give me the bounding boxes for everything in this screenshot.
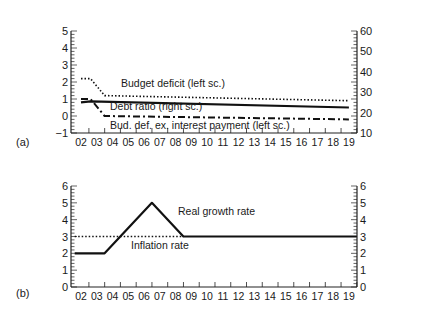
x-tick-label: 03 <box>91 290 103 302</box>
left-y-tick-label: 3 <box>62 231 68 243</box>
x-tick-label: 07 <box>154 290 166 302</box>
x-tick-label: 09 <box>185 136 197 148</box>
x-tick-label: 04 <box>107 290 119 302</box>
x-tick-label: 14 <box>264 290 276 302</box>
inflation-annotation: Inflation rate <box>131 239 189 251</box>
x-tick-label: 09 <box>185 290 197 302</box>
real-growth-annotation: Real growth rate <box>178 205 255 217</box>
right-y-tick-label: 30 <box>360 86 372 98</box>
x-tick-label: 06 <box>138 136 150 148</box>
x-tick-label: 05 <box>122 290 134 302</box>
left-y-tick-label: 0 <box>62 281 68 293</box>
x-tick-label: 15 <box>280 136 292 148</box>
left-y-tick-label: 2 <box>62 76 68 88</box>
x-tick-label: 06 <box>138 290 150 302</box>
x-tick-label: 04 <box>107 136 119 148</box>
debt-ratio-annotation: Debt ratio (right sc.) <box>110 100 202 112</box>
panel-a-label: (a) <box>16 136 29 148</box>
right-y-tick-label: 40 <box>360 66 372 78</box>
panel-b-label: (b) <box>16 287 29 299</box>
right-y-tick-label: 10 <box>360 127 372 139</box>
budget-deficit-annotation: Budget deficit (left sc.) <box>121 77 225 89</box>
x-tick-label: 18 <box>327 290 339 302</box>
left-y-tick-label: 5 <box>62 25 68 37</box>
right-y-tick-label: 3 <box>360 231 366 243</box>
x-tick-label: 08 <box>170 136 182 148</box>
left-y-tick-label: 2 <box>62 247 68 259</box>
left-y-tick-label: 3 <box>62 59 68 71</box>
left-y-tick-label: 0 <box>62 110 68 122</box>
x-tick-label: 13 <box>249 136 261 148</box>
right-y-tick-label: 6 <box>360 180 366 192</box>
right-y-tick-label: 50 <box>360 45 372 57</box>
left-y-tick-label: 4 <box>62 42 68 54</box>
left-y-tick-label: 1 <box>62 264 68 276</box>
x-tick-label: 15 <box>280 290 292 302</box>
right-y-tick-label: 60 <box>360 25 372 37</box>
x-tick-label: 10 <box>201 290 213 302</box>
x-tick-label: 10 <box>201 136 213 148</box>
x-tick-label: 14 <box>264 136 276 148</box>
x-tick-label: 18 <box>327 136 339 148</box>
x-tick-label: 13 <box>249 290 261 302</box>
x-tick-label: 17 <box>312 136 324 148</box>
right-y-tick-label: 1 <box>360 264 366 276</box>
left-y-tick-label: 5 <box>62 197 68 209</box>
x-tick-label: 03 <box>91 136 103 148</box>
right-y-tick-label: 4 <box>360 214 366 226</box>
left-y-tick-label: 4 <box>62 214 68 226</box>
chart-figure: 543210−160504030201002030405060708091011… <box>0 0 432 315</box>
x-tick-label: 16 <box>296 136 308 148</box>
bud-def-ex-annotation: Bud. def. ex. interest payment (left sc.… <box>110 119 290 131</box>
x-tick-label: 19 <box>343 136 355 148</box>
x-tick-label: 12 <box>233 290 245 302</box>
panel-b: 6543210654321002030405060708091011121314… <box>62 180 366 302</box>
x-tick-label: 19 <box>343 290 355 302</box>
right-y-tick-label: 2 <box>360 247 366 259</box>
x-tick-label: 02 <box>75 136 87 148</box>
x-tick-label: 11 <box>217 136 228 148</box>
right-y-tick-label: 20 <box>360 107 372 119</box>
x-tick-label: 02 <box>75 290 87 302</box>
x-tick-label: 17 <box>312 290 324 302</box>
right-y-tick-label: 0 <box>360 281 366 293</box>
x-tick-label: 11 <box>217 290 228 302</box>
right-y-tick-label: 5 <box>360 197 366 209</box>
left-y-tick-label: 6 <box>62 180 68 192</box>
left-y-tick-label: 1 <box>62 93 68 105</box>
x-tick-label: 07 <box>154 136 166 148</box>
x-tick-label: 16 <box>296 290 308 302</box>
left-y-tick-label: −1 <box>55 127 68 139</box>
x-tick-label: 12 <box>233 136 245 148</box>
x-tick-label: 08 <box>170 290 182 302</box>
x-tick-label: 05 <box>122 136 134 148</box>
